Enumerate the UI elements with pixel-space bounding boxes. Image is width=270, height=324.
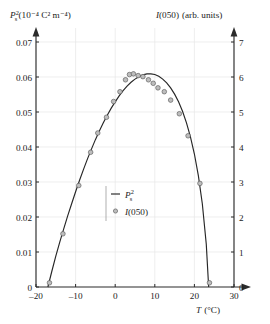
i050-marker-group [47,72,212,286]
legend-marker-swatch [113,209,117,213]
data-point [151,81,156,86]
x-axis-units: (°C) [204,305,220,315]
data-point [186,134,191,139]
chart-canvas: 0 0.01 0.02 0.03 0.04 0.05 0.06 0.07 0 1… [0,0,270,324]
left-axis-title: P2s(10⁻⁴ C² m⁻⁴) [9,9,71,23]
right-y-axis [231,27,238,287]
left-axis-units: (10⁻⁴ C² m⁻⁴) [19,10,71,20]
x-tick-label: –10 [68,291,83,301]
x-tick-label: –20 [28,291,43,301]
left-axis-subscript: s [15,15,18,22]
data-point [146,78,151,83]
left-tick-label: 0.02 [16,213,32,223]
data-point [131,72,136,77]
data-point [47,281,52,286]
right-tick-label: 4 [239,143,244,153]
legend-label-ps2: P2s [124,188,134,202]
polarization-intensity-chart: 0 0.01 0.02 0.03 0.04 0.05 0.06 0.07 0 1… [0,0,270,324]
data-point [88,150,93,155]
left-tick-labels: 0 0.01 0.02 0.03 0.04 0.05 0.06 0.07 [16,38,32,293]
right-tick-label: 7 [239,38,244,48]
data-point [111,99,116,104]
left-tick-label: 0.04 [16,143,32,153]
left-tick-label: 0.03 [16,178,32,188]
right-tick-label: 3 [239,178,244,188]
x-tick-label: 30 [229,291,239,301]
data-point [168,98,173,103]
data-point [118,89,123,94]
data-point [95,131,100,136]
data-point [198,181,203,186]
x-tick-label: 10 [150,291,160,301]
right-tick-label: 6 [239,73,244,83]
chart-legend: P2s I(050) [106,186,148,221]
x-tick-label: 20 [190,291,200,301]
x-tick-label: 0 [113,291,118,301]
right-axis-arrowhead [231,27,238,37]
data-layer [47,72,212,287]
ps2-fit-curve [48,74,209,287]
data-point [136,73,141,78]
left-tick-label: 0.06 [16,73,32,83]
data-point [123,78,128,83]
x-tick-labels: –20 –10 0 10 20 30 [28,291,239,301]
data-point [177,111,182,116]
left-tick-label: 0.07 [16,38,32,48]
right-axis-title: I(050)(arb. units) [155,10,222,20]
left-axis-arrowhead [33,27,40,37]
right-tick-labels: 0 1 2 3 4 5 6 7 [239,38,244,293]
right-tick-label: 0 [239,283,244,293]
data-point [156,86,161,91]
legend-label-i050: I(050) [124,207,148,217]
gridlines [36,28,234,287]
left-y-axis [33,27,40,287]
data-point [76,183,81,188]
data-point [207,281,212,286]
right-tick-label: 2 [239,213,244,223]
right-tick-label: 5 [239,108,244,118]
left-tick-label: 0.05 [16,108,32,118]
right-tick-label: 1 [239,248,244,258]
x-axis-title: T(°C) [196,305,220,315]
left-tick-label: 0.01 [16,248,32,258]
right-axis-units: (arb. units) [182,10,222,20]
data-point [141,74,146,79]
data-point [104,115,109,120]
data-point [61,232,66,237]
data-point [162,89,167,94]
right-axis-arg: (050) [159,10,179,20]
x-axis [36,284,251,291]
x-axis-symbol: T [196,305,202,315]
